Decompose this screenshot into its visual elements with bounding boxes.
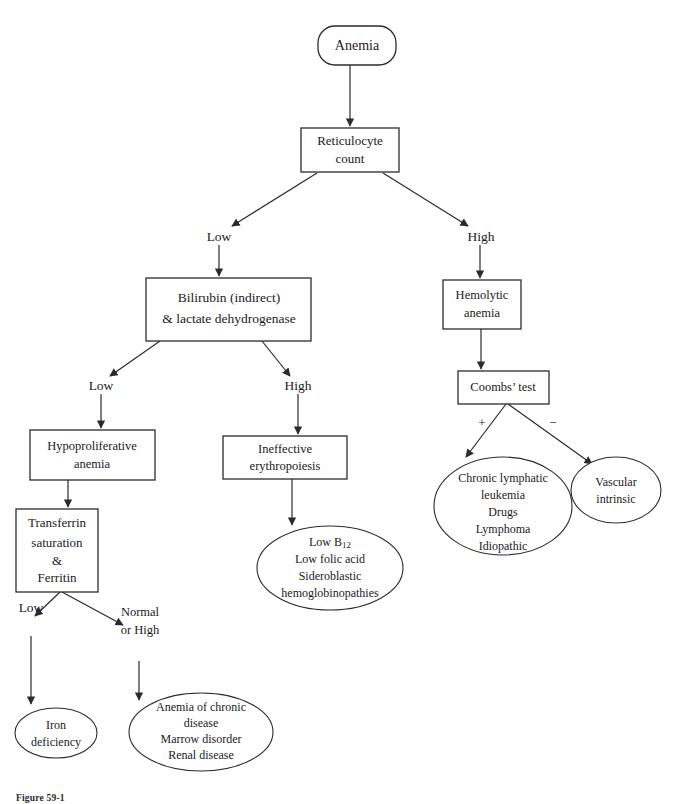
node-coombs-negative-causes-line1: Vascular bbox=[595, 475, 636, 489]
node-ineffective-causes-line4: hemoglobinopathies bbox=[281, 586, 379, 600]
node-chronic-disease-group-line2: disease bbox=[184, 716, 219, 730]
edge-coombs-positive bbox=[466, 404, 506, 457]
node-iron-deficiency-line1: Iron bbox=[46, 718, 66, 732]
node-transferrin-ferritin-line3: & bbox=[52, 553, 62, 568]
edge-bilirubin-to-high bbox=[262, 341, 290, 376]
node-coombs-positive-causes-line2: leukemia bbox=[481, 488, 526, 502]
node-anemia[interactable]: Anemia bbox=[318, 26, 396, 65]
figure-caption: Figure 59-1 bbox=[16, 793, 65, 803]
node-coombs-test[interactable]: Coombs’ test bbox=[458, 371, 549, 404]
node-hemolytic-anemia-line1: Hemolytic bbox=[456, 288, 509, 302]
node-bilirubin-ldh[interactable]: Bilirubin (indirect) & lactate dehydroge… bbox=[146, 278, 311, 341]
node-hypoproliferative-anemia-line2: anemia bbox=[74, 457, 111, 471]
node-ineffective-causes[interactable]: Low B12 Low folic acid Sideroblastic hem… bbox=[257, 526, 403, 610]
node-iron-deficiency[interactable]: Iron deficiency bbox=[15, 708, 97, 758]
node-hypoproliferative-anemia-line1: Hypoproliferative bbox=[47, 439, 137, 453]
node-hemolytic-anemia-line2: anemia bbox=[464, 306, 501, 320]
node-bilirubin-ldh-line1: Bilirubin (indirect) bbox=[178, 290, 280, 305]
edge-label-coombs-negative: − bbox=[549, 415, 556, 430]
node-ineffective-erythropoiesis-line1: Ineffective bbox=[258, 442, 312, 456]
node-coombs-negative-causes-shape bbox=[571, 457, 661, 523]
node-reticulocyte-count-line1: Reticulocyte bbox=[317, 133, 383, 148]
node-transferrin-ferritin-line2: saturation bbox=[31, 535, 83, 550]
node-coombs-negative-causes[interactable]: Vascular intrinsic bbox=[571, 457, 661, 523]
node-bilirubin-ldh-shape bbox=[146, 278, 311, 341]
node-bilirubin-ldh-line2: & lactate dehydrogenase bbox=[162, 311, 295, 326]
edge-transferrin-to-normal-high bbox=[62, 592, 123, 625]
node-coombs-positive-causes-line3: Drugs bbox=[488, 505, 518, 519]
node-transferrin-ferritin-line4: Ferritin bbox=[38, 570, 77, 585]
node-chronic-disease-group[interactable]: Anemia of chronic disease Marrow disorde… bbox=[129, 693, 273, 771]
edge-label-retic-high: High bbox=[468, 229, 495, 244]
node-ineffective-causes-line1-main: Low B bbox=[309, 535, 342, 549]
anemia-flowchart: Low High Low High + − Low Normal or High… bbox=[0, 0, 684, 804]
node-coombs-positive-causes-line5: Idiopathic bbox=[479, 539, 528, 553]
node-transferrin-ferritin-line1: Transferrin bbox=[28, 515, 87, 530]
edge-label-bili-high: High bbox=[285, 378, 312, 393]
node-transferrin-ferritin[interactable]: Transferrin saturation & Ferritin bbox=[16, 509, 98, 592]
edge-reticulocyte-to-high bbox=[383, 173, 468, 226]
edge-label-retic-low: Low bbox=[207, 229, 232, 244]
edge-label-transferrin-low: Low bbox=[19, 600, 44, 615]
node-hypoproliferative-anemia-shape bbox=[30, 430, 155, 480]
node-ineffective-erythropoiesis-line2: erythropoiesis bbox=[250, 459, 321, 473]
edge-label-transferrin-normal-high-line2: or High bbox=[121, 623, 160, 637]
edge-coombs-negative bbox=[508, 404, 592, 464]
node-reticulocyte-count[interactable]: Reticulocyte count bbox=[301, 128, 399, 172]
node-ineffective-causes-line1-subscript: 12 bbox=[342, 540, 351, 550]
node-ineffective-erythropoiesis[interactable]: Ineffective erythropoiesis bbox=[223, 436, 347, 479]
node-iron-deficiency-line2: deficiency bbox=[31, 735, 81, 749]
node-coombs-positive-causes[interactable]: Chronic lymphatic leukemia Drugs Lymphom… bbox=[434, 457, 572, 555]
node-coombs-positive-causes-line4: Lymphoma bbox=[476, 522, 531, 536]
node-ineffective-causes-line2: Low folic acid bbox=[295, 552, 365, 566]
node-chronic-disease-group-line4: Renal disease bbox=[168, 748, 234, 762]
edge-label-transferrin-normal-high-line1: Normal bbox=[121, 605, 160, 619]
node-chronic-disease-group-line3: Marrow disorder bbox=[161, 732, 242, 746]
edge-bilirubin-to-low bbox=[110, 341, 160, 376]
node-iron-deficiency-shape bbox=[15, 708, 97, 758]
node-reticulocyte-count-line2: count bbox=[336, 151, 365, 166]
node-hemolytic-anemia[interactable]: Hemolytic anemia bbox=[443, 280, 521, 329]
edge-reticulocyte-to-low bbox=[232, 173, 317, 226]
edge-label-bili-low: Low bbox=[89, 378, 114, 393]
node-hypoproliferative-anemia[interactable]: Hypoproliferative anemia bbox=[30, 430, 155, 480]
node-coombs-positive-causes-line1: Chronic lymphatic bbox=[458, 471, 548, 485]
node-coombs-negative-causes-line2: intrinsic bbox=[596, 492, 635, 506]
node-ineffective-causes-line3: Sideroblastic bbox=[299, 569, 362, 583]
node-anemia-label: Anemia bbox=[335, 38, 380, 53]
node-coombs-test-label: Coombs’ test bbox=[470, 380, 536, 394]
node-chronic-disease-group-line1: Anemia of chronic bbox=[156, 700, 246, 714]
edge-label-coombs-positive: + bbox=[478, 415, 485, 430]
